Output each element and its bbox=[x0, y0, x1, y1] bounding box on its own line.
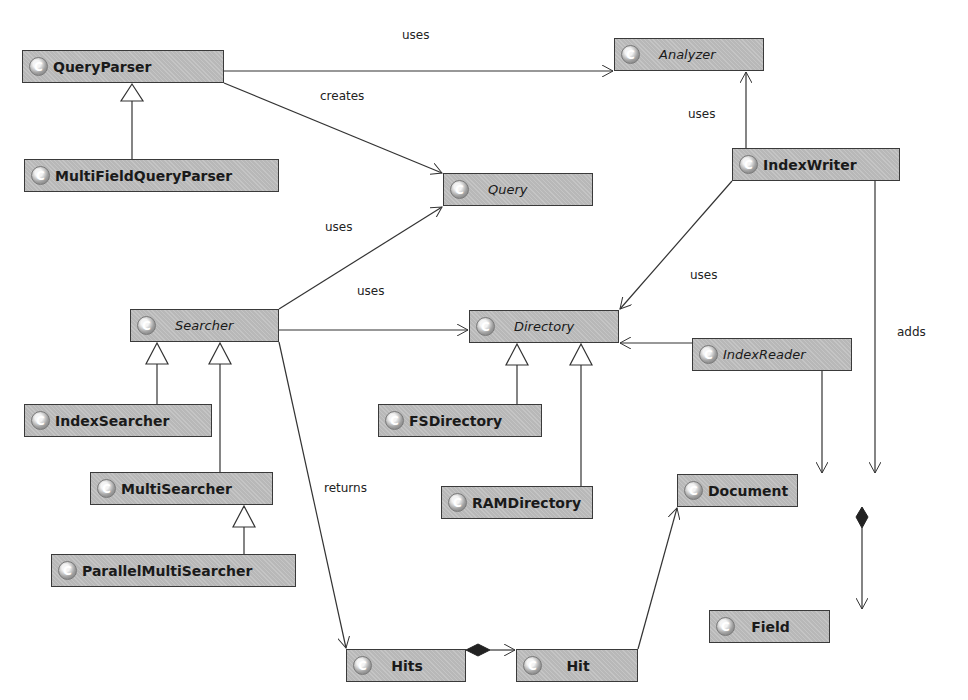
class-c-icon: C bbox=[353, 656, 372, 675]
class-c-icon: C bbox=[97, 479, 116, 498]
class-name: Searcher bbox=[175, 318, 233, 333]
label-searcher-returns-hits: returns bbox=[324, 481, 367, 495]
class-field[interactable]: C Field bbox=[709, 610, 830, 643]
class-name: Field bbox=[740, 619, 829, 635]
class-directory[interactable]: C Directory bbox=[469, 310, 619, 343]
class-c-icon: C bbox=[137, 316, 156, 335]
class-name: Hits bbox=[377, 658, 465, 674]
class-index-writer[interactable]: C IndexWriter bbox=[732, 148, 900, 181]
label-searcher-uses-query: uses bbox=[325, 220, 353, 234]
class-name: Directory bbox=[514, 319, 574, 334]
class-name: MultiFieldQueryParser bbox=[55, 168, 232, 184]
label-writer-adds-document: adds bbox=[897, 325, 926, 339]
class-query-parser[interactable]: C QueryParser bbox=[22, 50, 224, 83]
class-name: QueryParser bbox=[53, 59, 151, 75]
class-name: MultiSearcher bbox=[121, 481, 232, 497]
class-name: Query bbox=[488, 182, 528, 197]
class-name: Analyzer bbox=[659, 47, 716, 62]
class-searcher[interactable]: C Searcher bbox=[130, 309, 279, 342]
class-name: Hit bbox=[547, 658, 637, 674]
class-multi-searcher[interactable]: C MultiSearcher bbox=[90, 472, 273, 505]
uml-class-diagram: uses creates uses uses uses uses adds re… bbox=[0, 0, 968, 700]
class-c-icon: C bbox=[29, 57, 48, 76]
class-name: RAMDirectory bbox=[472, 495, 581, 511]
class-analyzer[interactable]: C Analyzer bbox=[614, 38, 764, 71]
label-writer-uses-analyzer: uses bbox=[688, 107, 716, 121]
class-query[interactable]: C Query bbox=[443, 173, 593, 206]
class-c-icon: C bbox=[58, 561, 77, 580]
class-c-icon: C bbox=[31, 166, 50, 185]
class-multi-field-query-parser[interactable]: C MultiFieldQueryParser bbox=[24, 159, 279, 192]
class-parallel-multi-searcher[interactable]: C ParallelMultiSearcher bbox=[51, 554, 296, 587]
class-c-icon: C bbox=[448, 493, 467, 512]
class-hit[interactable]: C Hit bbox=[516, 649, 638, 682]
class-name: IndexWriter bbox=[763, 157, 857, 173]
class-name: ParallelMultiSearcher bbox=[82, 563, 252, 579]
class-index-searcher[interactable]: C IndexSearcher bbox=[24, 404, 212, 437]
class-c-icon: C bbox=[699, 345, 718, 364]
class-c-icon: C bbox=[739, 155, 758, 174]
class-c-icon: C bbox=[31, 411, 50, 430]
class-ram-directory[interactable]: C RAMDirectory bbox=[441, 486, 593, 519]
class-name: Document bbox=[708, 483, 788, 499]
label-parser-creates-query: creates bbox=[320, 89, 364, 103]
class-c-icon: C bbox=[385, 411, 404, 430]
class-name: IndexReader bbox=[723, 347, 806, 362]
class-c-icon: C bbox=[621, 45, 640, 64]
class-name: FSDirectory bbox=[409, 413, 502, 429]
label-parser-uses-analyzer: uses bbox=[402, 28, 430, 42]
class-index-reader[interactable]: C IndexReader bbox=[692, 338, 852, 371]
class-name: IndexSearcher bbox=[55, 413, 169, 429]
class-c-icon: C bbox=[523, 656, 542, 675]
class-c-icon: C bbox=[716, 617, 735, 636]
label-searcher-uses-directory: uses bbox=[357, 284, 385, 298]
class-hits[interactable]: C Hits bbox=[346, 649, 466, 682]
class-c-icon: C bbox=[450, 180, 469, 199]
class-document[interactable]: C Document bbox=[677, 474, 798, 507]
class-fs-directory[interactable]: C FSDirectory bbox=[378, 404, 542, 437]
label-writer-uses-directory: uses bbox=[690, 268, 718, 282]
class-c-icon: C bbox=[476, 317, 495, 336]
class-c-icon: C bbox=[684, 481, 703, 500]
